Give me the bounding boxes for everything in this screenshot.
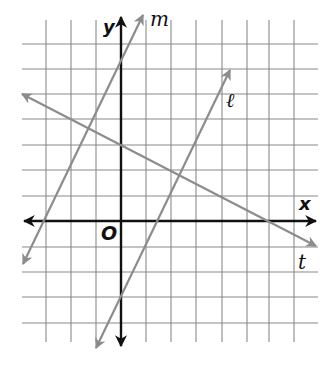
coordinate-plane xyxy=(0,0,328,368)
line-t-label: t xyxy=(298,250,306,274)
line-l-label: ℓ xyxy=(226,88,234,112)
y-axis-label: y xyxy=(103,16,115,37)
line-m xyxy=(23,15,143,264)
grid xyxy=(22,20,318,342)
x-axis-label: x xyxy=(299,193,311,214)
origin-label: O xyxy=(101,222,117,244)
line-l xyxy=(96,70,230,348)
line-m-label: m xyxy=(150,7,169,31)
